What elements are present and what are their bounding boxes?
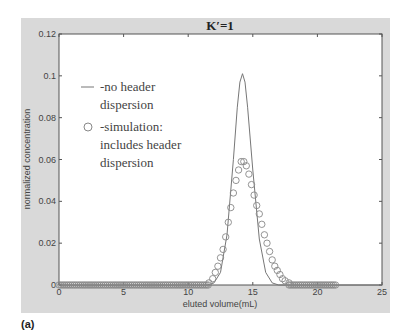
figure-background: 051015202500.020.040.060.080.10.12 K′=1 … <box>21 18 390 313</box>
legend-circle-label-cont: includes header <box>100 137 182 152</box>
legend-line-label-cont: dispersion <box>100 97 154 112</box>
chart: 051015202500.020.040.060.080.10.12 K′=1 … <box>21 18 390 313</box>
y-tick-label: 0.12 <box>38 29 56 39</box>
chart-title: K′=1 <box>206 18 234 33</box>
y-tick-label: 0.06 <box>38 155 56 165</box>
y-tick-label: 0 <box>51 280 56 290</box>
legend-line-label: -no header <box>100 79 156 94</box>
panel-label: (a) <box>21 318 34 330</box>
x-tick-label: 15 <box>248 287 258 297</box>
y-tick-label: 0.08 <box>38 113 56 123</box>
x-tick-label: 25 <box>377 287 387 297</box>
legend-circle-label: -simulation: <box>100 119 163 134</box>
y-tick-label: 0.04 <box>38 196 56 206</box>
y-tick-label: 0.02 <box>38 238 56 248</box>
y-tick-label: 0.1 <box>43 71 56 81</box>
x-axis-label: eluted volume(mL) <box>183 299 258 309</box>
y-axis-label: normalized concentration <box>22 109 32 210</box>
legend-circle-label-cont2: dispersion <box>100 155 154 170</box>
